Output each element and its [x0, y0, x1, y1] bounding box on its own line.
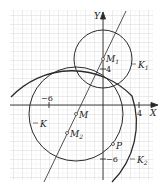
- geometry-figure: Y X 4 −6 4 −6 M1 M M2 P K1 K K2: [0, 0, 165, 193]
- x-axis-label: X: [149, 108, 157, 118]
- y-tick-neg6: −6: [106, 155, 118, 164]
- x-tick-4: 4: [137, 109, 142, 118]
- y-tick-4: 4: [106, 65, 111, 74]
- point-m1: [102, 58, 105, 61]
- label-m: M: [78, 110, 89, 120]
- label-k: K: [39, 119, 48, 129]
- point-m2: [66, 132, 69, 135]
- x-tick-neg6: −6: [41, 94, 53, 103]
- y-axis-label: Y: [94, 11, 101, 21]
- diagram: Y X 4 −6 4 −6 M1 M M2 P K1 K K2: [0, 0, 165, 193]
- label-p: P: [115, 141, 123, 151]
- point-p: [112, 143, 115, 146]
- point-m: [75, 113, 78, 116]
